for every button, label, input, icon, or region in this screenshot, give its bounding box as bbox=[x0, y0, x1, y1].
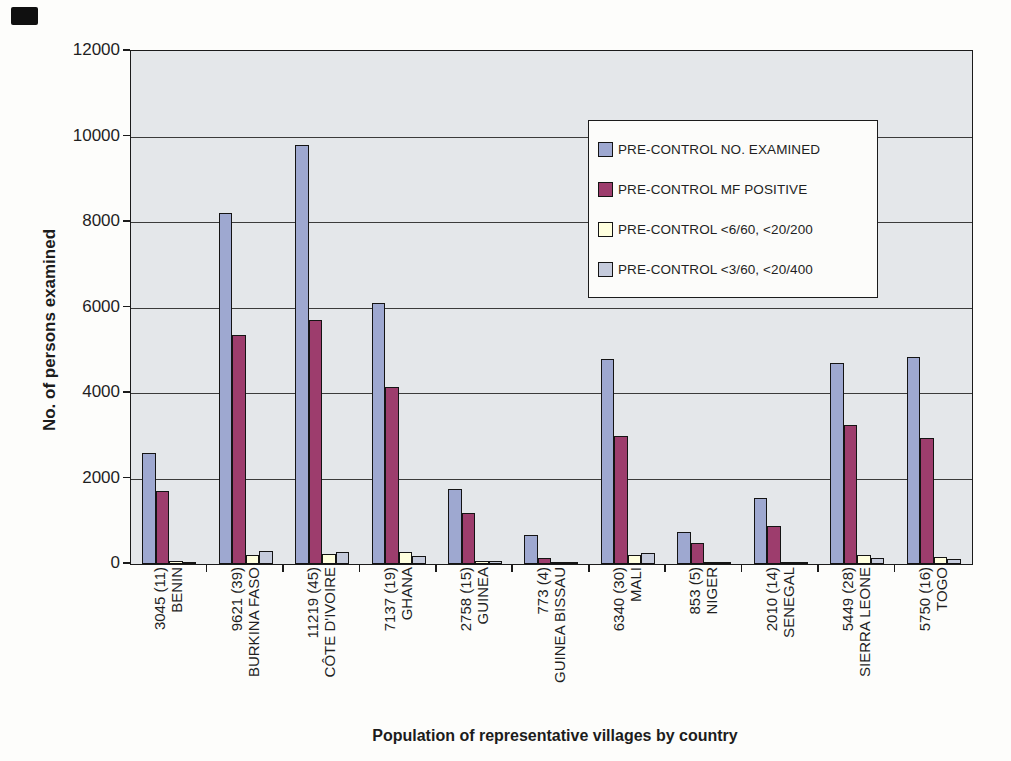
x-axis-tick bbox=[817, 565, 819, 572]
x-category-country: GUINEA BISSAU bbox=[551, 567, 568, 727]
x-category-value: 773 (4) bbox=[534, 567, 551, 727]
legend-label: PRE-CONTROL <3/60, <20/400 bbox=[618, 262, 813, 277]
x-category-country: BURKINA FASO bbox=[245, 567, 262, 727]
bar bbox=[142, 453, 156, 564]
y-tick-label: 2000 bbox=[20, 468, 120, 488]
chart-page: No. of persons examined 1200010000800060… bbox=[0, 0, 1011, 761]
bar bbox=[524, 535, 538, 564]
bar bbox=[844, 425, 858, 564]
x-category-country: SIERRA LEONE bbox=[856, 567, 873, 727]
bar bbox=[565, 562, 579, 564]
x-category-label: 5750 (16)TOGO bbox=[916, 567, 950, 727]
bar bbox=[830, 363, 844, 564]
x-axis-tick bbox=[894, 565, 896, 572]
x-category-country: GUINEA bbox=[474, 567, 491, 727]
bar bbox=[295, 145, 309, 564]
bar-group bbox=[896, 51, 972, 564]
legend-item: PRE-CONTROL <3/60, <20/400 bbox=[598, 262, 871, 277]
x-category-value: 7137 (19) bbox=[381, 567, 398, 727]
bar bbox=[704, 562, 718, 564]
legend-label: PRE-CONTROL <6/60, <20/200 bbox=[618, 222, 813, 237]
bar bbox=[399, 552, 413, 564]
bar bbox=[601, 359, 615, 564]
bar bbox=[628, 555, 642, 564]
bar bbox=[641, 553, 655, 564]
x-category-country: BENIN bbox=[168, 567, 185, 727]
y-tick-label: 0 bbox=[20, 553, 120, 573]
y-tick-label: 10000 bbox=[20, 126, 120, 146]
x-category-label: 9621 (39)BURKINA FASO bbox=[228, 567, 262, 727]
bar bbox=[232, 335, 246, 564]
bar bbox=[794, 562, 808, 564]
bar bbox=[857, 555, 871, 564]
legend-label: PRE-CONTROL NO. EXAMINED bbox=[618, 142, 820, 157]
bar bbox=[183, 562, 197, 564]
bar bbox=[462, 513, 476, 564]
bar bbox=[871, 558, 885, 564]
bar bbox=[219, 213, 233, 564]
bar bbox=[677, 532, 691, 564]
y-tick-label: 4000 bbox=[20, 382, 120, 402]
y-tick-label: 8000 bbox=[20, 211, 120, 231]
x-axis-tick bbox=[359, 565, 361, 572]
bar-group bbox=[207, 51, 283, 564]
bar bbox=[322, 554, 336, 564]
bar bbox=[691, 543, 705, 564]
legend-item: PRE-CONTROL NO. EXAMINED bbox=[598, 142, 871, 157]
x-category-value: 9621 (39) bbox=[228, 567, 245, 727]
y-axis-title: No. of persons examined bbox=[40, 74, 62, 587]
bar-group bbox=[437, 51, 513, 564]
x-axis-tick bbox=[435, 565, 437, 572]
bar bbox=[385, 387, 399, 564]
y-tick-label: 6000 bbox=[20, 297, 120, 317]
y-axis-tick bbox=[123, 49, 130, 51]
x-category-country: CÔTE D'IVOIRE bbox=[321, 567, 338, 727]
bar bbox=[934, 557, 948, 564]
y-tick-label: 12000 bbox=[20, 40, 120, 60]
legend-label: PRE-CONTROL MF POSITIVE bbox=[618, 182, 807, 197]
legend-swatch-icon bbox=[598, 222, 613, 237]
y-axis-tick bbox=[123, 477, 130, 479]
x-axis-tick bbox=[282, 565, 284, 572]
bar bbox=[767, 526, 781, 564]
x-category-label: 2758 (15)GUINEA bbox=[457, 567, 491, 727]
bar bbox=[614, 436, 628, 564]
x-category-label: 2010 (14)SENEGAL bbox=[763, 567, 797, 727]
bar bbox=[920, 438, 934, 564]
legend-item: PRE-CONTROL <6/60, <20/200 bbox=[598, 222, 871, 237]
x-axis-title: Population of representative villages by… bbox=[300, 727, 810, 745]
bar-group bbox=[513, 51, 589, 564]
x-category-value: 2010 (14) bbox=[763, 567, 780, 727]
x-axis-tick bbox=[511, 565, 513, 572]
y-axis-tick bbox=[123, 391, 130, 393]
y-axis-tick bbox=[123, 562, 130, 564]
bar-group bbox=[360, 51, 436, 564]
y-axis-tick bbox=[123, 306, 130, 308]
bar bbox=[412, 556, 426, 564]
legend-swatch-icon bbox=[598, 262, 613, 277]
x-category-value: 2758 (15) bbox=[457, 567, 474, 727]
x-category-label: 7137 (19)GHANA bbox=[381, 567, 415, 727]
bar bbox=[781, 562, 795, 564]
bar bbox=[246, 555, 260, 564]
scan-artifact bbox=[11, 7, 38, 25]
bar bbox=[169, 561, 183, 564]
x-category-value: 853 (5) bbox=[686, 567, 703, 727]
x-category-value: 11219 (45) bbox=[304, 567, 321, 727]
x-axis-tick bbox=[206, 565, 208, 572]
x-category-label: 5449 (28)SIERRA LEONE bbox=[839, 567, 873, 727]
x-category-country: TOGO bbox=[933, 567, 950, 727]
bar bbox=[718, 562, 732, 564]
bar-group bbox=[284, 51, 360, 564]
legend-swatch-icon bbox=[598, 182, 613, 197]
x-category-label: 6340 (30)MALI bbox=[610, 567, 644, 727]
x-category-country: SENEGAL bbox=[780, 567, 797, 727]
legend: PRE-CONTROL NO. EXAMINEDPRE-CONTROL MF P… bbox=[588, 120, 878, 298]
x-axis-tick bbox=[664, 565, 666, 572]
bar bbox=[448, 489, 462, 564]
x-category-label: 11219 (45)CÔTE D'IVOIRE bbox=[304, 567, 338, 727]
y-axis-tick bbox=[123, 135, 130, 137]
bar bbox=[947, 559, 961, 564]
x-category-label: 773 (4)GUINEA BISSAU bbox=[534, 567, 568, 727]
legend-swatch-icon bbox=[598, 142, 613, 157]
